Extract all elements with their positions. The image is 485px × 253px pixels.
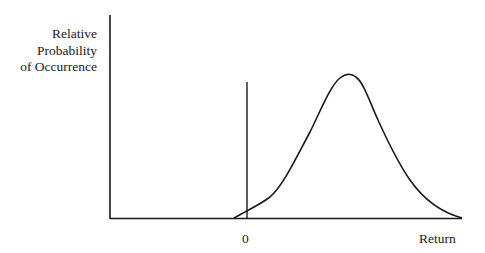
y-axis-label-line-2: Probability bbox=[20, 43, 97, 60]
y-axis-label-line-1: Relative bbox=[20, 26, 97, 43]
probability-distribution-chart: Relative Probability of Occurrence 0 Ret… bbox=[0, 0, 485, 253]
zero-tick-label: 0 bbox=[242, 231, 249, 247]
y-axis-label: Relative Probability of Occurrence bbox=[20, 26, 97, 76]
y-axis-label-line-3: of Occurrence bbox=[20, 59, 97, 76]
distribution-curve bbox=[234, 74, 462, 218]
x-axis-label: Return bbox=[419, 231, 456, 247]
